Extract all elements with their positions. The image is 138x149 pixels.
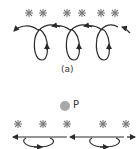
bottom-star-row xyxy=(14,120,130,128)
arrow-icon xyxy=(14,26,38,31)
star-icon xyxy=(63,120,71,128)
bottom-field xyxy=(13,137,135,147)
star-icon xyxy=(25,9,33,17)
star-icon xyxy=(39,9,47,17)
ellipse-loop-1 xyxy=(24,138,54,147)
point-p-label: P xyxy=(73,99,79,110)
arrow-icon xyxy=(122,27,130,33)
part-a-label: (a) xyxy=(61,64,74,74)
helical-loops xyxy=(14,25,130,60)
point-p-marker xyxy=(60,101,70,111)
star-icon xyxy=(122,120,130,128)
arrow-icon xyxy=(52,25,70,30)
star-icon xyxy=(97,9,105,17)
star-icon xyxy=(63,9,71,17)
star-icon xyxy=(99,120,107,128)
loop-2 xyxy=(66,25,92,60)
star-icon xyxy=(111,9,119,17)
diagram-canvas xyxy=(0,0,138,149)
loop-3 xyxy=(96,25,118,60)
top-star-row xyxy=(25,9,119,17)
star-icon xyxy=(39,120,47,128)
star-icon xyxy=(14,120,22,128)
ellipse-loop-2 xyxy=(90,138,120,147)
star-icon xyxy=(78,9,86,17)
loop-1 xyxy=(34,25,60,60)
arrow-icon xyxy=(84,25,102,30)
